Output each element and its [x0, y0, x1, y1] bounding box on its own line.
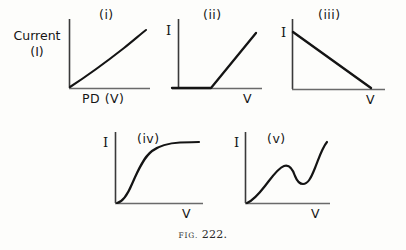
panel-iii-title: (iii): [318, 7, 341, 22]
panel-v-xlabel: V: [311, 207, 320, 221]
panel-i-ylabel-line2: (I): [8, 44, 66, 60]
panel-ii-title: (ii): [203, 7, 222, 22]
panel-v-title: (v): [267, 131, 286, 146]
panel-iii: [292, 19, 385, 90]
panel-iii-ylabel: I: [281, 26, 286, 41]
panel-i-xlabel: PD (V): [82, 92, 124, 106]
panel-iii-xlabel: V: [366, 93, 375, 107]
panel-v: [245, 132, 330, 204]
panel-i-ylabel-line1: Current: [8, 28, 66, 44]
panel-v-ylabel: I: [234, 136, 239, 151]
panel-ii-xlabel: V: [243, 92, 252, 106]
figure-caption-prefix: FIG.: [179, 231, 198, 240]
panel-iv-xlabel: V: [182, 207, 191, 221]
panel-iv-title: (iv): [137, 131, 160, 146]
panel-ii-curve: [172, 33, 256, 88]
panel-iii-curve: [293, 32, 371, 88]
panel-v-curve: [247, 142, 327, 203]
panel-i: [69, 19, 150, 89]
panel-iv-ylabel: I: [103, 136, 108, 151]
panel-i-title: (i): [99, 7, 114, 22]
panel-i-ylabel: Current (I): [8, 28, 66, 59]
panel-i-curve: [70, 30, 146, 87]
panel-ii-ylabel: I: [166, 24, 171, 39]
figure-caption-number: 222.: [202, 228, 228, 241]
panel-ii: [172, 19, 262, 89]
panel-iv-curve: [117, 142, 199, 203]
figure-caption: FIG. 222.: [0, 228, 406, 241]
